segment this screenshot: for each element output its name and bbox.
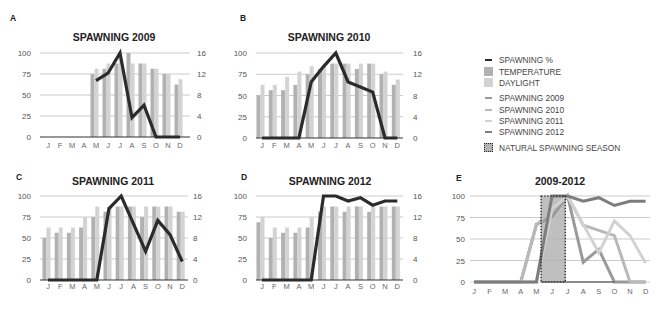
x-axis-month-label: M (502, 287, 508, 296)
left-axis-tick-label: 75 (238, 213, 247, 222)
daylight-bar (132, 207, 136, 281)
right-axis-tick-label: 0 (197, 133, 202, 142)
x-axis-month-label: N (627, 287, 632, 296)
right-axis-tick-label: 12 (193, 213, 202, 222)
x-axis-month-label: M (533, 287, 539, 296)
temperature-bar (392, 85, 396, 138)
daylight-bar (273, 85, 277, 138)
legend-item-spawning-2010: SPAWNING 2010 (484, 104, 564, 115)
daylight-bar (167, 74, 171, 137)
temperature-bar (67, 233, 71, 280)
right-axis-tick-label: 12 (197, 70, 206, 79)
right-axis-tick-label: 16 (413, 192, 422, 201)
legend-item-spawning-2011: SPAWNING 2011 (484, 115, 563, 126)
x-axis-month-label: J (334, 282, 338, 291)
left-axis-tick-label: 100 (452, 192, 466, 201)
left-axis-tick-label: 75 (238, 70, 247, 79)
panel-letter-b: B (240, 13, 246, 23)
x-axis-month-label: O (153, 141, 159, 150)
right-axis-tick-label: 8 (193, 234, 198, 243)
daylight-bar (120, 207, 124, 281)
x-axis-month-label: D (179, 282, 185, 291)
x-axis-month-label: S (596, 287, 601, 296)
temperature-bar (177, 212, 181, 280)
daylight-bar (261, 217, 265, 280)
daylight-bar (285, 228, 289, 281)
x-axis-month-label: S (143, 282, 148, 291)
legend-label: SPAWNING 2010 (499, 105, 564, 115)
temperature-bar (55, 233, 59, 280)
x-axis-month-label: J (550, 287, 554, 296)
temperature-bar (281, 90, 285, 138)
temperature-bar (91, 217, 95, 280)
daylight-bar (47, 228, 51, 281)
x-axis-month-label: A (581, 287, 586, 296)
temperature-bar (152, 207, 156, 281)
x-axis-month-label: O (370, 141, 376, 150)
x-axis-month-label: M (283, 282, 289, 291)
daylight-bar (285, 77, 289, 138)
right-axis-tick-label: 16 (413, 49, 422, 58)
x-axis-month-label: N (382, 141, 387, 150)
right-axis-tick-label: 8 (413, 234, 418, 243)
right-axis-tick-label: 16 (193, 192, 202, 201)
daylight-bar (71, 228, 75, 281)
right-axis-tick-label: 4 (193, 255, 198, 264)
x-axis-month-label: J (46, 282, 50, 291)
daylight-bar (83, 217, 87, 280)
legend-label: NATURAL SPAWNING SEASON (499, 143, 620, 153)
legend-item-spawning-2012: SPAWNING 2012 (484, 126, 564, 137)
right-axis-tick-label: 0 (193, 276, 198, 285)
daylight-bar (359, 207, 363, 281)
left-axis-tick-label: 50 (456, 235, 465, 244)
chart-title-2009: SPAWNING 2009 (34, 31, 194, 43)
left-axis-tick-label: 0 (461, 278, 466, 287)
x-axis-month-label: F (272, 282, 277, 291)
daylight-bar (359, 64, 363, 138)
x-axis-month-label: J (260, 141, 264, 150)
right-axis-tick-label: 8 (413, 92, 418, 101)
x-axis-month-label: M (69, 282, 75, 291)
legend-item-temperature: TEMPERATURE (484, 66, 561, 77)
left-axis-tick-label: 0 (27, 133, 32, 142)
x-axis-month-label: J (106, 141, 110, 150)
daylight-bar (334, 207, 338, 281)
x-axis-month-label: D (395, 141, 401, 150)
left-axis-tick-label: 25 (238, 255, 247, 264)
temperature-bar (79, 228, 83, 281)
left-axis-tick-label: 100 (234, 49, 248, 58)
legend-label: TEMPERATURE (499, 67, 561, 77)
x-axis-month-label: J (119, 282, 123, 291)
x-axis-month-label: S (358, 141, 363, 150)
temperature-bar (116, 207, 120, 281)
panel-letter-a: A (10, 13, 16, 23)
daylight-bar (396, 80, 400, 138)
legend-line-swatch-icon (484, 93, 493, 102)
daylight-bar (297, 228, 301, 281)
daylight-bar (179, 79, 183, 137)
daylight-bar (273, 228, 277, 281)
left-axis-tick-label: 100 (18, 49, 32, 58)
daylight-bar (347, 207, 351, 281)
temperature-bar (355, 69, 359, 138)
x-axis-month-label: J (566, 287, 570, 296)
left-axis-tick-label: 25 (456, 257, 465, 266)
legend-label: SPAWNING % (499, 55, 553, 65)
daylight-bar (384, 207, 388, 281)
legend-line-swatch-icon (484, 105, 493, 114)
x-axis-month-label: A (131, 282, 136, 291)
left-axis-tick-label: 25 (22, 112, 31, 121)
x-axis-month-label: J (334, 141, 338, 150)
x-axis-month-label: F (58, 141, 63, 150)
temperature-bar (115, 64, 119, 138)
legend-line-swatch-icon (484, 127, 493, 136)
x-axis-month-label: S (141, 141, 146, 150)
daylight-bar (322, 207, 326, 281)
left-axis-tick-label: 0 (243, 134, 248, 143)
temperature-bar (380, 207, 384, 281)
left-axis-tick-label: 50 (22, 234, 31, 243)
daylight-bar (322, 66, 326, 138)
temperature-bar (257, 222, 261, 280)
temperature-bar (355, 207, 359, 281)
left-axis-tick-label: 100 (234, 192, 248, 201)
